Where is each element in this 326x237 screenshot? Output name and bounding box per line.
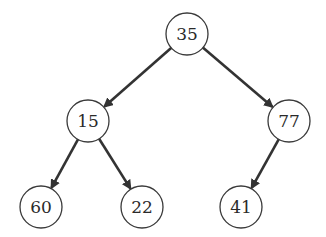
node-label: 35 [176,24,198,44]
tree-node-22: 22 [121,186,163,228]
tree-node-35: 35 [166,13,208,55]
node-label: 77 [278,111,300,131]
node-label: 60 [30,197,52,217]
edge-15-to-22 [99,138,131,188]
tree-node-15: 15 [67,100,109,142]
tree-diagram: 351577602241 [0,0,326,237]
tree-node-60: 60 [20,186,62,228]
edge-15-to-60 [52,139,79,188]
node-label: 22 [131,197,153,217]
edge-35-to-15 [105,47,172,106]
node-label: 15 [77,111,99,131]
tree-node-77: 77 [268,100,310,142]
tree-node-41: 41 [220,186,262,228]
edge-35-to-77 [202,47,272,107]
edge-77-to-41 [252,138,280,187]
node-label: 41 [230,197,252,217]
